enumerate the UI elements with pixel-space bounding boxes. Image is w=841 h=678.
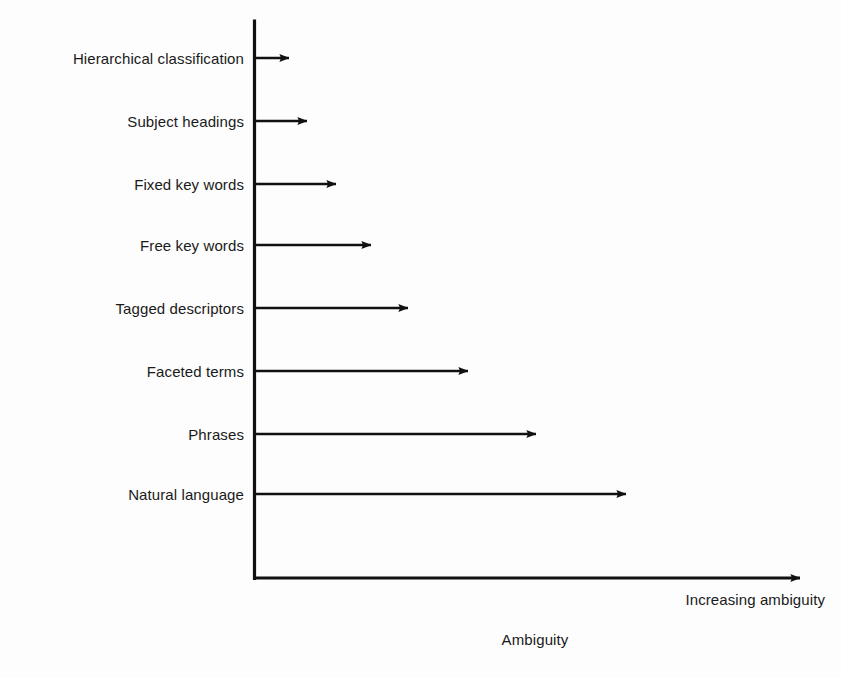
figure-caption: Ambiguity	[435, 632, 635, 647]
ambiguity-diagram	[0, 0, 841, 678]
category-label-hierarchical-classification: Hierarchical classification	[73, 51, 244, 66]
category-label-fixed-key-words: Fixed key words	[134, 177, 244, 192]
category-label-tagged-descriptors: Tagged descriptors	[115, 301, 244, 316]
category-label-faceted-terms: Faceted terms	[147, 364, 244, 379]
category-label-free-key-words: Free key words	[140, 238, 244, 253]
category-label-subject-headings: Subject headings	[127, 114, 244, 129]
category-label-phrases: Phrases	[188, 427, 244, 442]
category-label-natural-language: Natural language	[128, 487, 244, 502]
figure-canvas: Hierarchical classification Subject head…	[0, 0, 841, 678]
axis-direction-label: Increasing ambiguity	[685, 592, 825, 607]
